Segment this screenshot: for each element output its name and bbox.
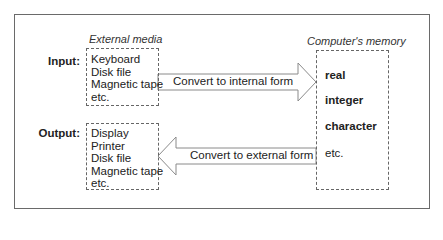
input-item: Keyboard — [91, 53, 163, 66]
output-label: Output: — [30, 127, 80, 139]
output-item: Printer — [91, 140, 163, 153]
convert-external-label: Convert to external form — [190, 149, 313, 161]
memory-item-character: character — [325, 120, 377, 132]
output-item: etc. — [91, 177, 163, 190]
input-item: Disk file — [91, 66, 163, 79]
output-item: Magnetic tape — [91, 165, 163, 178]
memory-item-etc: etc. — [325, 147, 344, 159]
memory-item-integer: integer — [325, 94, 363, 106]
input-item: etc. — [91, 91, 163, 104]
output-item: Disk file — [91, 152, 163, 165]
input-item: Magnetic tape — [91, 78, 163, 91]
external-media-caption: External media — [89, 33, 162, 45]
convert-internal-label: Convert to internal form — [173, 75, 293, 87]
memory-box: real integer character etc. — [316, 50, 389, 190]
memory-caption: Computer's memory — [307, 35, 406, 47]
output-item: Display — [91, 127, 163, 140]
input-media-box: Keyboard Disk file Magnetic tape etc. — [86, 48, 159, 106]
memory-item-real: real — [325, 69, 345, 81]
output-media-box: Display Printer Disk file Magnetic tape … — [86, 123, 159, 190]
input-label: Input: — [30, 55, 80, 67]
